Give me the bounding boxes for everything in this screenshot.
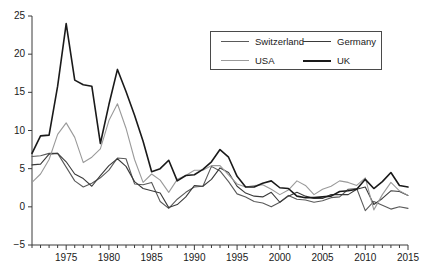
legend-swatch-switzerland [221, 41, 249, 42]
series-line-germany [32, 153, 408, 207]
y-axis-tick-label: 25 [0, 10, 25, 21]
x-axis-tick-label: 2015 [388, 252, 424, 263]
x-axis-tick-label: 1990 [174, 252, 214, 263]
legend-item-uk: UK [303, 51, 350, 70]
y-axis-tick-label: 0 [0, 201, 25, 212]
legend-row: USA UK [211, 51, 383, 70]
x-axis-tick-label: 2000 [260, 252, 300, 263]
y-axis-tick-label: 20 [0, 48, 25, 59]
legend-label-usa: USA [255, 51, 275, 70]
legend-item-switzerland: Switzerland [221, 32, 304, 51]
legend-swatch-germany [303, 41, 331, 42]
legend-swatch-usa [221, 60, 249, 61]
legend-label-germany: Germany [337, 32, 376, 51]
x-axis-tick-label: 2010 [345, 252, 385, 263]
y-axis-tick-label: −5 [0, 239, 25, 250]
y-axis-tick-label: 10 [0, 125, 25, 136]
legend-label-switzerland: Switzerland [255, 32, 304, 51]
legend-swatch-uk [303, 60, 331, 62]
x-axis-tick-label: 1980 [89, 252, 129, 263]
legend-item-germany: Germany [303, 32, 376, 51]
chart-legend: Switzerland Germany USA UK [210, 31, 382, 70]
x-axis-tick-label: 1995 [217, 252, 257, 263]
legend-row: Switzerland Germany [211, 32, 383, 51]
x-axis-tick-label: 2005 [303, 252, 343, 263]
series-line-usa [32, 104, 408, 210]
inflation-line-chart: −50510152025 197519801985199019952000200… [0, 0, 424, 278]
y-axis-tick-label: 15 [0, 86, 25, 97]
y-axis-tick-label: 5 [0, 163, 25, 174]
legend-label-uk: UK [337, 51, 350, 70]
series-line-switzerland [32, 153, 408, 210]
x-axis-tick-label: 1985 [132, 252, 172, 263]
legend-item-usa: USA [221, 51, 275, 70]
x-axis-tick-label: 1975 [46, 252, 86, 263]
